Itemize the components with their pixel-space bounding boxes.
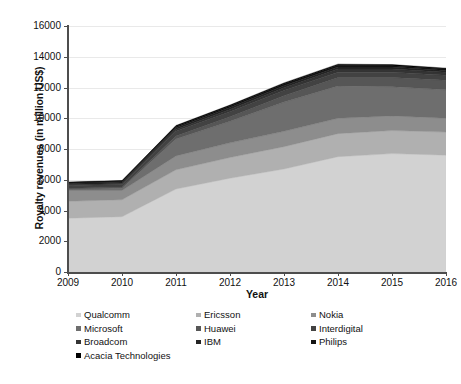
area-chart-svg <box>68 26 446 272</box>
y-tick-label: 0 <box>55 267 61 277</box>
legend-swatch-icon <box>76 353 81 358</box>
legend-swatch-icon <box>196 313 201 318</box>
stacked-area-series <box>68 26 446 272</box>
legend-item-huawei[interactable]: Huawei <box>196 324 311 334</box>
legend-swatch-icon <box>311 340 316 345</box>
legend-row: MicrosoftHuaweiInterdigital <box>76 322 436 336</box>
legend-swatch-icon <box>76 340 81 345</box>
y-tick-label: 2000 <box>39 236 61 246</box>
y-tick-label: 14000 <box>33 52 61 62</box>
y-tick-mark <box>64 57 68 58</box>
legend-swatch-icon <box>76 326 81 331</box>
x-tick-label: 2012 <box>219 278 241 288</box>
x-tick-label: 2009 <box>57 278 79 288</box>
x-tick-label: 2010 <box>111 278 133 288</box>
legend-swatch-icon <box>196 326 201 331</box>
legend-label: Broadcom <box>84 337 127 347</box>
legend-row: QualcommEricssonNokia <box>76 308 436 322</box>
legend-item-ibm[interactable]: IBM <box>196 337 311 347</box>
x-tick-mark <box>68 272 69 276</box>
legend-swatch-icon <box>76 313 81 318</box>
legend-item-qualcomm[interactable]: Qualcomm <box>76 310 196 320</box>
y-tick-mark <box>64 88 68 89</box>
x-tick-label: 2011 <box>165 278 187 288</box>
y-tick-mark <box>64 211 68 212</box>
y-tick-label: 8000 <box>39 144 61 154</box>
legend-label: Acacia Technologies <box>84 351 170 361</box>
legend-label: Ericsson <box>204 310 240 320</box>
x-tick-mark <box>392 272 393 276</box>
legend-item-broadcom[interactable]: Broadcom <box>76 337 196 347</box>
legend-label: Interdigital <box>319 324 363 334</box>
legend-swatch-icon <box>311 313 316 318</box>
legend-label: Microsoft <box>84 324 123 334</box>
x-tick-mark <box>230 272 231 276</box>
x-tick-mark <box>284 272 285 276</box>
legend-item-microsoft[interactable]: Microsoft <box>76 324 196 334</box>
legend-label: Huawei <box>204 324 236 334</box>
x-tick-label: 2014 <box>327 278 349 288</box>
legend-label: Nokia <box>319 310 343 320</box>
y-tick-label: 4000 <box>39 206 61 216</box>
y-tick-mark <box>64 118 68 119</box>
chart-figure: Royalty revenues (in million US$) 020004… <box>0 0 461 384</box>
y-tick-mark <box>64 149 68 150</box>
x-tick-mark <box>122 272 123 276</box>
legend-item-interdigital[interactable]: Interdigital <box>311 324 431 334</box>
x-tick-label: 2015 <box>381 278 403 288</box>
y-tick-label: 10000 <box>33 113 61 123</box>
x-tick-mark <box>446 272 447 276</box>
legend-label: IBM <box>204 337 221 347</box>
x-tick-mark <box>176 272 177 276</box>
x-axis-title: Year <box>68 288 446 300</box>
legend-label: Philips <box>319 337 347 347</box>
legend-item-acacia-technologies[interactable]: Acacia Technologies <box>76 351 196 361</box>
y-tick-mark <box>64 26 68 27</box>
x-axis-line <box>67 272 446 274</box>
legend-row: BroadcomIBMPhilips <box>76 335 436 349</box>
y-tick-mark <box>64 241 68 242</box>
legend-swatch-icon <box>311 326 316 331</box>
legend-swatch-icon <box>196 340 201 345</box>
y-tick-label: 16000 <box>33 21 61 31</box>
legend-item-nokia[interactable]: Nokia <box>311 310 431 320</box>
x-tick-mark <box>338 272 339 276</box>
x-tick-label: 2016 <box>435 278 457 288</box>
legend-label: Qualcomm <box>84 310 130 320</box>
legend-item-philips[interactable]: Philips <box>311 337 431 347</box>
y-tick-mark <box>64 180 68 181</box>
x-tick-label: 2013 <box>273 278 295 288</box>
y-tick-label: 12000 <box>33 83 61 93</box>
y-tick-label: 6000 <box>39 175 61 185</box>
chart-legend: QualcommEricssonNokiaMicrosoftHuaweiInte… <box>76 308 436 362</box>
legend-item-ericsson[interactable]: Ericsson <box>196 310 311 320</box>
legend-row: Acacia Technologies <box>76 349 436 363</box>
plot-area: 0200040006000800010000120001400016000 20… <box>68 26 446 272</box>
